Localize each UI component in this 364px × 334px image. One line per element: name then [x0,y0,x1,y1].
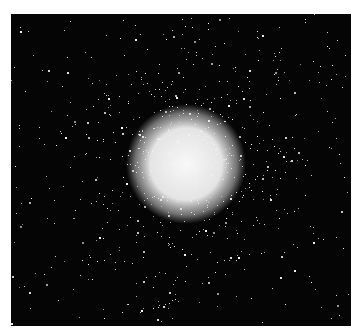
star-field-canvas [11,14,351,326]
star-cluster-photo: Black-and-white photograph of a dense gl… [11,14,351,326]
